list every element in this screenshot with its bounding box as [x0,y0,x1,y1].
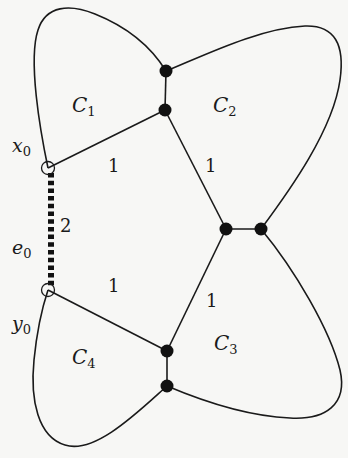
weight-x0-b: 1 [108,155,119,176]
label-x0: x0 [12,134,31,159]
label-y0: y0 [11,312,31,337]
edge-x0-b [48,110,165,168]
c4-outer-curve [33,290,167,446]
label-c2: C2 [213,93,237,119]
label-c3: C3 [214,331,238,357]
edge-y0-f [48,290,167,351]
vertex-e [255,223,268,236]
vertex-a [160,65,173,78]
vertex-x0 [42,162,55,175]
vertex-g [161,380,174,393]
vertex-y0 [42,284,55,297]
edge-b-d [165,110,226,229]
c3-outer-curve [167,229,342,418]
c1-outer-curve [34,8,166,168]
label-e0: e0 [12,236,32,261]
label-c4: C4 [72,345,96,371]
weight-f-d: 1 [206,290,217,311]
vertex-b [159,104,172,117]
vertex-f [161,345,174,358]
weight-e0: 2 [60,215,71,236]
weight-b-d: 1 [205,155,216,176]
weight-y0-f: 1 [108,275,119,296]
c2-outer-curve [166,26,341,229]
vertex-d [220,223,233,236]
label-c1: C1 [72,93,96,119]
graph-diagram: x0 y0 e0 C1 C2 C3 C4 1 1 2 1 1 [0,0,348,458]
